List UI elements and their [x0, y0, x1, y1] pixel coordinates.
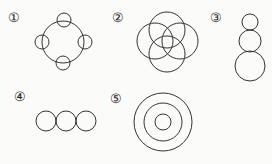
figure-3: ③ [210, 10, 265, 81]
figure-4-label: ④ [14, 89, 26, 104]
figure-3-medium-circle [239, 30, 261, 52]
figure-1-small-circle-top [57, 13, 71, 27]
figure-5: ⑤ [110, 91, 192, 151]
figure-4-circle-1 [36, 111, 56, 131]
figure-4-circle-2 [56, 111, 76, 131]
figure-3-label: ③ [210, 10, 222, 25]
figure-5-inner-circle [155, 114, 171, 130]
figure-2-label: ② [112, 10, 124, 25]
figure-5-outer-circle [134, 93, 192, 151]
figure-5-label: ⑤ [110, 91, 122, 106]
figure-2-circle-top [149, 12, 185, 48]
figure-4-circle-3 [76, 111, 96, 131]
figure-1-label: ① [8, 10, 20, 25]
figure-3-large-circle [235, 51, 265, 81]
figure-2: ② [112, 10, 198, 72]
figure-5-middle-circle [144, 103, 182, 141]
figure-3-small-circle [242, 14, 258, 30]
circle-figures-diagram: ① ② ③ ④ ⑤ [0, 0, 272, 164]
figure-1-small-circle-right [78, 35, 92, 49]
figure-4: ④ [14, 89, 96, 131]
figure-1: ① [8, 10, 92, 70]
